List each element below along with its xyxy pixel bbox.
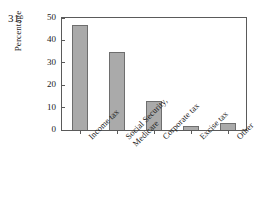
x-axis-tick-mark [117, 130, 118, 134]
bar [72, 25, 88, 130]
x-axis-tick-mark [191, 130, 192, 134]
bar [220, 123, 236, 130]
x-axis-label: Other [235, 135, 242, 142]
x-axis-label: Income tax [87, 135, 94, 142]
figure: 31. Percentage 01020304050 Income taxSoc… [0, 0, 259, 212]
bar [183, 126, 199, 130]
y-axis-tick-label: 30 [47, 57, 56, 67]
y-axis-tick-mark [61, 85, 65, 86]
x-axis-tick-mark [80, 130, 81, 134]
y-axis-tick-mark [61, 107, 65, 108]
y-axis-tick-mark [61, 62, 65, 63]
y-axis-label: Percentage [13, 0, 23, 66]
x-axis-label: Excise tax [198, 135, 205, 142]
x-axis-label: Corporate tax [161, 135, 168, 142]
y-axis-tick-label: 10 [47, 102, 56, 112]
x-axis-label-line: Medicare [131, 142, 138, 149]
y-axis-tick-mark [61, 40, 65, 41]
y-axis-tick-label: 0 [52, 124, 57, 134]
x-axis-label: Social Security,Medicare [124, 135, 137, 148]
y-axis-tick-label: 50 [47, 12, 56, 22]
y-axis-tick-label: 40 [47, 34, 56, 44]
y-axis-tick-mark [61, 18, 65, 19]
y-axis-tick-label: 20 [47, 79, 56, 89]
y-axis-tick-mark [61, 130, 65, 131]
x-axis-tick-mark [228, 130, 229, 134]
